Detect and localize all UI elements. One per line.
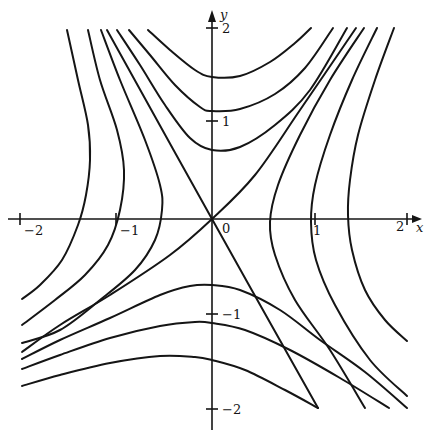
x-tick-label-neg1: −1 xyxy=(120,223,139,238)
y-tick-label-2: 2 xyxy=(222,21,230,36)
left-curve-3 xyxy=(22,30,90,299)
y-tick-label-neg2: −2 xyxy=(222,402,241,417)
y-axis-label: y xyxy=(219,7,228,22)
right-curve-3 xyxy=(348,28,407,341)
x-tick-label-2: 2 xyxy=(396,219,404,234)
upper-curve-3 xyxy=(117,28,347,151)
x-tick-label-1: 1 xyxy=(313,223,321,238)
hyperbola-diagram: −2 −1 1 2 0 x y 2 1 −1 −2 xyxy=(0,0,428,433)
y-tick-label-1: 1 xyxy=(222,114,230,129)
x-axis-label: x xyxy=(416,220,424,235)
lower-curve-3 xyxy=(22,356,318,408)
x-tick-label-neg2: −2 xyxy=(24,223,43,238)
asymptote-2 xyxy=(22,28,356,352)
right-curve-2 xyxy=(311,28,407,396)
lower-curve-2 xyxy=(22,322,389,408)
left-curve-1 xyxy=(22,30,162,343)
y-axis-arrow-icon xyxy=(208,10,216,22)
origin-label: 0 xyxy=(222,221,230,236)
left-curve-2 xyxy=(22,30,124,325)
y-tick-label-neg1: −1 xyxy=(222,307,241,322)
curve-group xyxy=(22,28,407,408)
lower-curve-1 xyxy=(22,285,407,408)
